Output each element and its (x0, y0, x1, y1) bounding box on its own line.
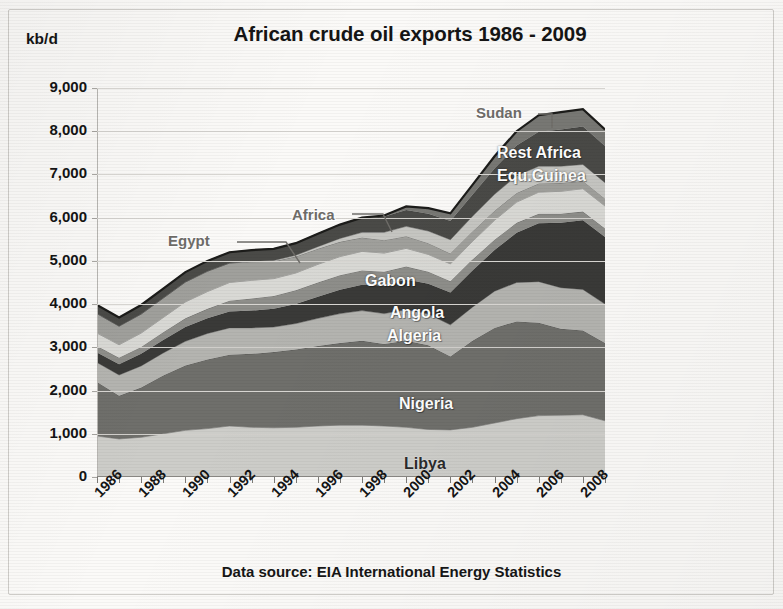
y-axis-unit-label: kb/d (26, 30, 58, 48)
y-tick-label: 2,000 (5, 381, 87, 398)
y-tick-label: 7,000 (5, 164, 87, 181)
scanned-page: African crude oil exports 1986 - 2009 kb… (0, 0, 783, 609)
y-tick-label: 0 (5, 467, 87, 484)
y-tick-mark (92, 477, 97, 478)
y-tick-label: 1,000 (5, 424, 87, 441)
y-tick-label: 6,000 (5, 208, 87, 225)
y-tick-label: 5,000 (5, 251, 87, 268)
y-tick-label: 8,000 (5, 121, 87, 138)
series-label-equ-guinea: Equ.Guinea (497, 167, 586, 185)
series-label-sudan: Sudan (476, 104, 522, 121)
series-label-libya: Libya (404, 455, 446, 473)
series-label-rest-africa: Rest Africa (497, 144, 581, 162)
series-label-gabon: Gabon (365, 272, 416, 290)
series-label-algeria: Algeria (387, 327, 441, 345)
source-note: Data source: EIA International Energy St… (0, 563, 783, 580)
series-label-angola: Angola (390, 304, 444, 322)
series-label-africa: Africa (292, 206, 335, 223)
series-label-egypt: Egypt (168, 232, 210, 249)
series-label-nigeria: Nigeria (399, 395, 453, 413)
y-tick-label: 4,000 (5, 294, 87, 311)
y-tick-label: 9,000 (5, 78, 87, 95)
y-tick-label: 3,000 (5, 337, 87, 354)
chart-title: African crude oil exports 1986 - 2009 (150, 22, 670, 46)
